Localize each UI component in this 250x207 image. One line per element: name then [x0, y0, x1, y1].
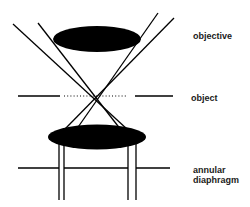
label-objective: objective	[193, 31, 232, 41]
phase-contrast-diagram: objective object annular diaphragm	[0, 0, 250, 207]
label-object: object	[191, 93, 218, 103]
label-annular: annular	[193, 165, 226, 175]
objective-lens	[53, 26, 141, 52]
label-diaphragm: diaphragm	[193, 175, 239, 185]
condenser-lens	[48, 125, 146, 150]
